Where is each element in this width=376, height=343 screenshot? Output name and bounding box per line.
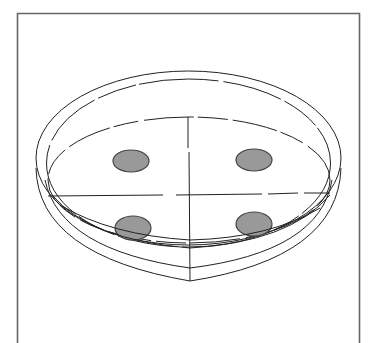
spot-upper-left bbox=[113, 150, 149, 172]
dish-base bbox=[36, 168, 341, 281]
spot-lower-left bbox=[115, 216, 151, 240]
quadrant-lines bbox=[48, 117, 330, 281]
figure-frame bbox=[18, 14, 360, 343]
spot-lower-right bbox=[236, 212, 272, 236]
spot-upper-right bbox=[236, 149, 272, 171]
petri-dish-diagram bbox=[0, 0, 376, 343]
